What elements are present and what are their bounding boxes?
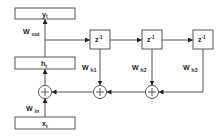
- weight-label-h2: Wh2: [132, 64, 147, 73]
- sum-node-3: [146, 86, 159, 99]
- weight-label-in: Win: [26, 105, 39, 114]
- weight-label-h1: Wh1: [82, 64, 97, 73]
- delay-node-1: z-1: [90, 30, 110, 49]
- weight-label-h3: Wh3: [183, 64, 198, 73]
- sum-node-2: [94, 86, 107, 99]
- weight-label-out: Wout: [23, 28, 40, 37]
- delay-node-3: z-1: [193, 30, 213, 49]
- hidden-node-h: ht: [15, 57, 75, 69]
- input-node-x: xt: [15, 117, 75, 129]
- output-node-y: yt: [15, 8, 75, 19]
- sum-node-1: [39, 86, 52, 99]
- rnn-delay-diagram: yt ht xt z-1 z-1 z-1: [0, 0, 224, 140]
- delay-node-2: z-1: [142, 30, 162, 49]
